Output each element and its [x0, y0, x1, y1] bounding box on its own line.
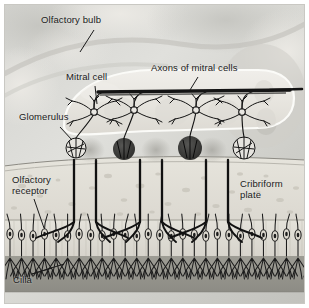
receptor-cell-nucleus [55, 233, 58, 237]
glomerulus-open-1 [66, 138, 86, 158]
receptor-cell-nucleus [135, 234, 138, 238]
receptor-cell-nucleus [228, 233, 231, 237]
label-olfactory-bulb: Olfactory bulb [41, 15, 101, 26]
receptor-cell-nucleus [147, 232, 150, 236]
glomerulus-filled-1 [113, 138, 135, 160]
label-glomerulus: Glomerulus [19, 112, 69, 123]
receptor-cell-nucleus [285, 232, 288, 236]
receptor-cell-nucleus [78, 232, 81, 236]
receptor-cell-nucleus [274, 234, 277, 238]
receptor-cell-nucleus [205, 234, 208, 238]
receptor-cell-nucleus [193, 233, 196, 237]
label-axons-of-mitral-cells: Axons of mitral cells [151, 63, 238, 74]
receptor-cell-nucleus [89, 233, 92, 237]
label-olfactory-receptor: Olfactory receptor [12, 175, 51, 196]
receptor-cell-nucleus [32, 234, 35, 238]
receptor-cell-nucleus [20, 233, 23, 237]
label-mitral-cell: Mitral cell [66, 72, 107, 83]
glomerulus-open-2 [233, 137, 255, 159]
receptor-cell-nucleus [158, 233, 161, 237]
receptor-cell-nucleus [216, 232, 219, 236]
receptor-cell-nucleus [262, 233, 265, 237]
receptor-cell-nucleus [239, 234, 242, 238]
glomerulus-filled-2 [178, 136, 202, 160]
label-cribriform-plate: Cribriform plate [240, 179, 283, 200]
receptor-cell-nucleus [9, 232, 12, 236]
receptor-cell-nucleus [297, 233, 300, 237]
olfactory-system-figure: Olfactory bulb Mitral cell Axons of mitr… [0, 0, 309, 308]
figure-canvas [0, 0, 309, 308]
label-cilia: Cilia [13, 275, 32, 286]
olfactory-epithelium [4, 220, 305, 292]
